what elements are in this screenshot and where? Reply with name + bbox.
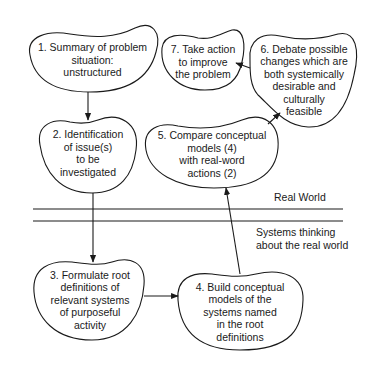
systems-thinking-label-line2: about the real world (256, 239, 348, 252)
arrow-4-to-5 (226, 188, 240, 274)
node-4-text: 4. Build conceptual models of the system… (184, 280, 296, 344)
systems-thinking-label-line1: Systems thinking (256, 226, 335, 239)
real-world-label: Real World (274, 191, 326, 204)
node-3-text: 3. Formulate root definitions of relevan… (36, 268, 144, 332)
node-6-text: 6. Debate possible changes which are bot… (252, 42, 356, 118)
node-5-text: 5. Compare conceptual models (4) with re… (146, 128, 278, 180)
node-2-text: 2. Identification of issue(s) to be inve… (40, 127, 136, 179)
node-7-text: 7. Take action to improve the problem (163, 42, 243, 82)
node-1-text: 1. Summary of problem situation: unstruc… (30, 40, 155, 80)
